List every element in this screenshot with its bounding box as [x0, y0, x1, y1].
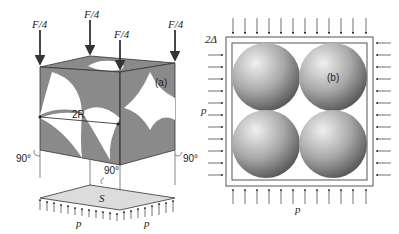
figure-canvas: 2R (a) F/4 F/4 F/4 F/4 90° 90° 90° S — [0, 0, 399, 234]
angle-label: 90° — [104, 165, 119, 176]
pressure-arrows-bottom — [233, 189, 366, 204]
pressure-label: p — [294, 203, 301, 215]
base-plate — [40, 185, 175, 210]
sphere — [232, 110, 300, 178]
force-label: F/4 — [31, 18, 48, 30]
angle-label: 90° — [16, 153, 31, 164]
cube-diagram: 2R (a) F/4 F/4 F/4 F/4 90° 90° 90° S — [16, 8, 198, 229]
sphere — [299, 110, 367, 178]
pressure-arrows-left — [208, 55, 223, 175]
force-label: F/4 — [167, 18, 184, 30]
panel-label-b: (b) — [327, 72, 339, 83]
pressure-arrows-right — [376, 43, 391, 175]
pressure-label: p — [143, 217, 150, 229]
force-label: F/4 — [83, 8, 100, 20]
area-label: S — [99, 192, 105, 204]
sphere-packing-diagram: (b) 2Δ — [200, 18, 391, 215]
pressure-arrows-top — [233, 18, 366, 34]
pressure-label: p — [200, 104, 207, 116]
angle-label: 90° — [183, 153, 198, 164]
panel-label-a: (a) — [155, 77, 167, 88]
gap-label: 2Δ — [205, 33, 217, 45]
sphere — [232, 43, 300, 111]
pressure-label: p — [75, 217, 82, 229]
force-label: F/4 — [113, 28, 130, 40]
diameter-label: 2R — [72, 109, 85, 120]
